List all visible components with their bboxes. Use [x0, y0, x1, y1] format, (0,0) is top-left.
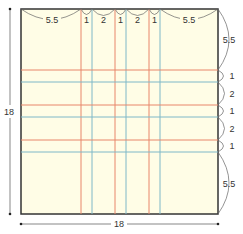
- right-label-0: 5.5: [223, 35, 236, 45]
- right-label-6: 5.5: [223, 179, 236, 189]
- right-label-4: 2: [229, 124, 234, 134]
- top-label-5: 1: [152, 15, 157, 25]
- height-label: 18: [4, 107, 14, 117]
- right-label-3: 1: [229, 106, 234, 116]
- bottom-overall-dimension: 18: [20, 219, 220, 229]
- top-label-0: 5.5: [46, 15, 59, 25]
- top-label-1: 1: [84, 15, 89, 25]
- top-label-3: 1: [118, 15, 123, 25]
- top-label-6: 5.5: [183, 15, 196, 25]
- right-label-2: 2: [229, 89, 234, 99]
- top-label-2: 2: [101, 15, 106, 25]
- width-label: 18: [114, 219, 124, 229]
- left-overall-dimension: 18: [4, 8, 14, 216]
- right-label-5: 1: [229, 141, 234, 151]
- paper-square: [21, 9, 218, 214]
- folding-diagram: 5.5 1 2 1 2 1 5.5 5.5 1 2 1 2 1 5.5 18 1…: [0, 0, 243, 234]
- top-label-4: 2: [135, 15, 140, 25]
- right-label-1: 1: [229, 71, 234, 81]
